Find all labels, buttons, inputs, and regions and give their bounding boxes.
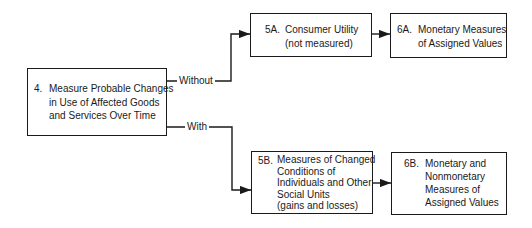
edge-with bbox=[166, 127, 251, 190]
node-5a-consumer-utility: 5A. Consumer Utility (not measured) bbox=[250, 13, 372, 57]
node-text-line: in Use of Affected Goods bbox=[49, 96, 174, 110]
node-number: 5A. bbox=[265, 23, 285, 50]
node-text-line: Assigned Values bbox=[425, 196, 502, 209]
node-number: 6A. bbox=[397, 23, 418, 50]
node-6a-monetary-measures: 6A. Monetary Measures of Assigned Values bbox=[390, 13, 507, 58]
edge-label-without: Without bbox=[177, 75, 215, 87]
node-text-line: Monetary Measures bbox=[418, 23, 506, 37]
node-number: 4. bbox=[34, 82, 49, 123]
node-text-line: and Services Over Time bbox=[49, 109, 174, 123]
edge-label-with: With bbox=[185, 121, 209, 133]
node-text-line: Social Units bbox=[277, 189, 375, 201]
node-text-line: Monetary and bbox=[425, 157, 502, 170]
node-4-measure-changes: 4. Measure Probable Changes in Use of Af… bbox=[27, 68, 167, 136]
node-text-line: (not measured) bbox=[285, 37, 365, 51]
node-text-line: (gains and losses) bbox=[277, 200, 375, 212]
node-text-line: Consumer Utility bbox=[285, 23, 365, 37]
node-text-line: Measures of bbox=[425, 183, 502, 196]
node-text-line: Nonmonetary bbox=[425, 170, 502, 183]
node-6b-monetary-nonmonetary: 6B. Monetary and Nonmonetary Measures of… bbox=[391, 152, 507, 215]
edge-without bbox=[166, 34, 250, 81]
node-text-line: Measure Probable Changes bbox=[49, 82, 174, 96]
node-text-line: Individuals and Other bbox=[277, 177, 375, 189]
node-number: 5B. bbox=[258, 154, 277, 212]
node-text-line: of Assigned Values bbox=[418, 37, 506, 51]
node-text-line: Measures of Changed bbox=[277, 154, 375, 166]
node-5b-changed-conditions: 5B. Measures of Changed Conditions of In… bbox=[251, 151, 373, 214]
node-text-line: Conditions of bbox=[277, 166, 375, 178]
node-number: 6B. bbox=[404, 157, 425, 209]
